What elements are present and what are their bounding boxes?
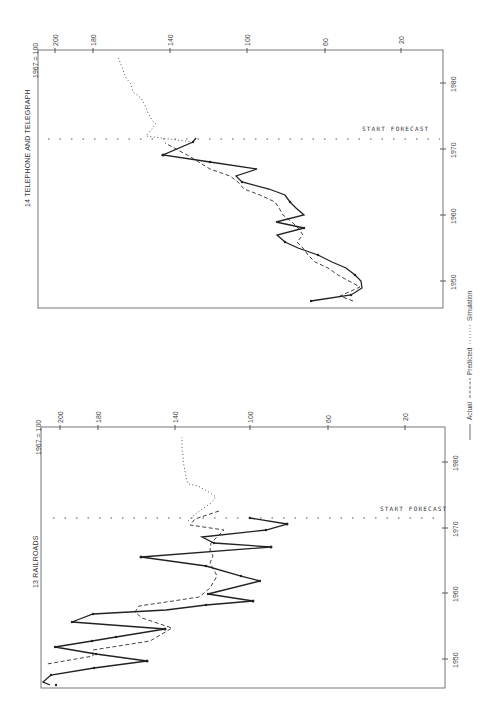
legend-actual: Actual [466, 401, 473, 420]
simulation-line [118, 56, 193, 142]
actual-points [162, 141, 357, 302]
simulation-line [182, 437, 216, 521]
tick-label: 1980 [452, 455, 459, 471]
tick-label: 60 [322, 38, 329, 46]
tick-label: 1960 [450, 208, 457, 224]
legend-predicted: Predicted [466, 347, 473, 375]
tick-label: 1950 [452, 652, 459, 668]
plot-frame [38, 50, 443, 308]
unit-label: 1967 = 100 [35, 420, 42, 455]
tick-label: 180 [95, 411, 102, 423]
tick-label: 140 [172, 411, 179, 423]
tick-label: 1980 [450, 76, 457, 92]
actual-points [50, 517, 289, 686]
actual-line [43, 518, 287, 685]
legend-simulation: Simulation [466, 290, 473, 321]
chart-telephone-telegraph: 14 TELEPHONE AND TELEGRAPH 1967 = 100 20… [24, 34, 457, 308]
tick-label: 20 [398, 36, 405, 44]
unit-label: 1967 = 100 [32, 43, 39, 78]
actual-line [163, 138, 362, 301]
tick-label: 140 [167, 34, 174, 46]
tick-label: 1950 [450, 274, 457, 290]
predicted-line [165, 143, 360, 301]
tick-label: 1960 [452, 586, 459, 602]
legend: Actual Predicted Simulation [466, 290, 473, 440]
chart-title: 14 TELEPHONE AND TELEGRAPH [24, 89, 31, 207]
tick-label: 200 [52, 34, 59, 46]
chart-page: 14 TELEPHONE AND TELEGRAPH 1967 = 100 20… [0, 0, 489, 713]
tick-label: 100 [247, 411, 254, 423]
chart-title: 13 RAILROADS [32, 535, 39, 588]
tick-label: 1970 [452, 521, 459, 537]
tick-label: 60 [325, 415, 332, 423]
chart-railroads: 13 RAILROADS 1967 = 100 200 180 140 100 … [32, 411, 459, 688]
tick-label: 200 [57, 411, 64, 423]
tick-label: 1970 [450, 142, 457, 158]
tick-label: 100 [244, 34, 251, 46]
tick-label: 20 [402, 413, 409, 421]
predicted-line [47, 511, 224, 664]
start-forecast-label: START FORECAST [380, 505, 447, 512]
tick-label: 180 [90, 34, 97, 46]
start-forecast-label: START FORECAST [362, 125, 429, 132]
